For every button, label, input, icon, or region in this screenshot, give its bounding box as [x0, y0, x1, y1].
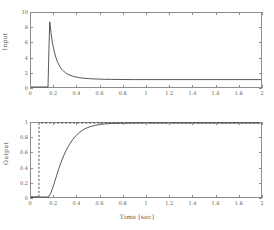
y-tick-output-3	[259, 152, 262, 153]
y-tick-output-5	[30, 122, 33, 123]
x-tick-input-3	[100, 12, 101, 15]
y-tick-input-4	[30, 27, 33, 28]
x-tick-input-10	[262, 12, 263, 15]
x-tick-output-6	[169, 122, 170, 125]
x-tick-output-5	[146, 122, 147, 125]
y-tick-output-3	[30, 152, 33, 153]
y-ticklabel-output-5: 1	[0, 119, 28, 125]
x-tick-output-8	[216, 195, 217, 198]
x-tick-input-8	[216, 12, 217, 15]
x-tick-output-6	[169, 195, 170, 198]
x-tick-output-7	[192, 122, 193, 125]
x-tick-output-1	[53, 195, 54, 198]
x-ticklabel-input-1: 0.2	[49, 90, 57, 96]
x-tick-output-3	[100, 122, 101, 125]
x-tick-input-1	[53, 85, 54, 88]
x-axis-label-time: Time [sec]	[0, 213, 274, 220]
y-axis-label-input: Input	[1, 25, 8, 59]
x-tick-output-4	[123, 122, 124, 125]
y-tick-input-5	[259, 12, 262, 13]
x-ticklabel-input-7: 1.4	[188, 90, 196, 96]
y-tick-output-5	[259, 122, 262, 123]
y-ticklabel-input-5: 10	[0, 9, 28, 15]
plot-area-output	[30, 122, 262, 198]
y-tick-input-0	[259, 88, 262, 89]
x-tick-input-7	[192, 85, 193, 88]
y-tick-output-1	[30, 183, 33, 184]
x-ticklabel-input-5: 1	[144, 90, 147, 96]
y-tick-output-4	[259, 137, 262, 138]
x-tick-input-9	[239, 85, 240, 88]
x-ticklabel-input-6: 1.2	[165, 90, 173, 96]
x-tick-input-9	[239, 12, 240, 15]
x-ticklabel-output-6: 1.2	[165, 200, 173, 206]
plot-area-input	[30, 12, 262, 88]
x-ticklabel-output-2: 0.4	[72, 200, 80, 206]
x-tick-input-1	[53, 12, 54, 15]
y-tick-input-5	[30, 12, 33, 13]
x-ticklabel-output-8: 1.6	[212, 200, 220, 206]
x-tick-input-5	[146, 85, 147, 88]
x-tick-input-2	[76, 12, 77, 15]
y-tick-input-2	[259, 58, 262, 59]
x-tick-input-4	[123, 85, 124, 88]
y-tick-input-3	[30, 42, 33, 43]
y-tick-output-2	[30, 168, 33, 169]
x-tick-input-3	[100, 85, 101, 88]
y-tick-input-2	[30, 58, 33, 59]
x-ticklabel-input-8: 1.6	[212, 90, 220, 96]
y-tick-output-1	[259, 183, 262, 184]
series-output-1	[31, 123, 261, 197]
x-ticklabel-output-3: 0.6	[96, 200, 104, 206]
x-ticklabel-input-3: 0.6	[96, 90, 104, 96]
x-tick-input-6	[169, 12, 170, 15]
x-ticklabel-output-7: 1.4	[188, 200, 196, 206]
x-tick-output-2	[76, 195, 77, 198]
x-tick-input-5	[146, 12, 147, 15]
series-input-0	[31, 22, 261, 87]
series-output-0	[31, 123, 261, 197]
y-tick-input-0	[30, 88, 33, 89]
x-tick-input-4	[123, 12, 124, 15]
x-tick-output-7	[192, 195, 193, 198]
x-tick-input-6	[169, 85, 170, 88]
x-ticklabel-output-9: 1.8	[235, 200, 243, 206]
y-tick-output-4	[30, 137, 33, 138]
y-tick-input-3	[259, 42, 262, 43]
x-tick-output-1	[53, 122, 54, 125]
y-tick-input-1	[30, 73, 33, 74]
x-ticklabel-output-0: 0	[28, 200, 31, 206]
x-tick-output-2	[76, 122, 77, 125]
x-ticklabel-input-2: 0.4	[72, 90, 80, 96]
x-tick-output-10	[262, 122, 263, 125]
figure-canvas: 00.20.40.60.811.21.41.61.820246810 Input…	[0, 0, 274, 230]
x-tick-output-10	[262, 195, 263, 198]
y-ticklabel-input-1: 2	[0, 70, 28, 76]
x-tick-output-5	[146, 195, 147, 198]
y-ticklabel-input-0: 0	[0, 85, 28, 91]
output-curve-svg	[31, 123, 261, 197]
x-ticklabel-input-0: 0	[28, 90, 31, 96]
y-tick-input-1	[259, 73, 262, 74]
x-tick-output-4	[123, 195, 124, 198]
y-axis-label-output: Output	[2, 135, 9, 173]
x-tick-input-2	[76, 85, 77, 88]
y-ticklabel-output-1: 0.2	[0, 180, 28, 186]
x-ticklabel-output-1: 0.2	[49, 200, 57, 206]
x-ticklabel-input-9: 1.8	[235, 90, 243, 96]
x-tick-output-9	[239, 195, 240, 198]
x-ticklabel-input-10: 2	[260, 90, 263, 96]
x-ticklabel-output-10: 2	[260, 200, 263, 206]
y-tick-output-0	[259, 198, 262, 199]
x-tick-input-7	[192, 12, 193, 15]
x-tick-output-9	[239, 122, 240, 125]
x-ticklabel-output-5: 1	[144, 200, 147, 206]
y-tick-input-4	[259, 27, 262, 28]
x-tick-input-8	[216, 85, 217, 88]
x-tick-input-10	[262, 85, 263, 88]
x-tick-output-8	[216, 122, 217, 125]
y-tick-output-0	[30, 198, 33, 199]
y-ticklabel-output-0: 0	[0, 195, 28, 201]
x-ticklabel-input-4: 0.8	[119, 90, 127, 96]
x-tick-output-3	[100, 195, 101, 198]
